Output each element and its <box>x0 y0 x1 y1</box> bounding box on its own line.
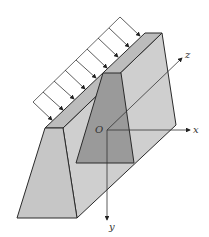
x-axis-label: x <box>193 124 199 135</box>
dam-svg: O x y z <box>0 0 209 237</box>
dam-diagram: O x y z <box>0 0 209 237</box>
z-axis-label: z <box>184 49 191 60</box>
y-axis-label: y <box>108 221 115 232</box>
origin-label: O <box>95 124 103 135</box>
